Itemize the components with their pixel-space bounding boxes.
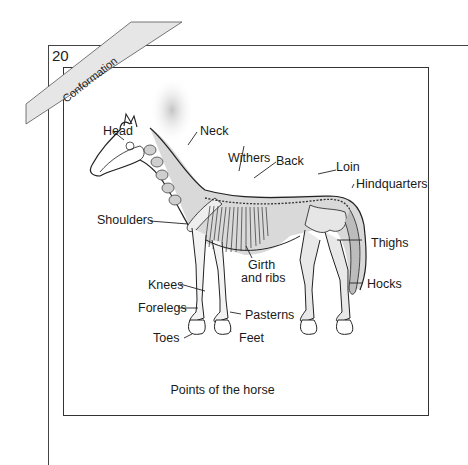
label-neck: Neck [200, 124, 228, 138]
label-girth-line2: and ribs [241, 271, 285, 285]
figure-caption: Points of the horse [170, 383, 274, 397]
label-back: Back [276, 154, 304, 168]
figure-caption-wrap: Points of the horse [0, 383, 453, 397]
label-forelegs: Forelegs [138, 301, 187, 315]
label-knees: Knees [148, 278, 183, 292]
label-thighs: Thighs [371, 236, 409, 250]
label-girth-line1: Girth [248, 258, 275, 272]
label-shoulders: Shoulders [97, 213, 153, 227]
label-hindquarters: Hindquarters [356, 177, 428, 191]
label-withers: Withers [228, 151, 270, 165]
label-hocks: Hocks [367, 277, 402, 291]
page-number: 20 [52, 47, 69, 64]
label-pasterns: Pasterns [245, 308, 294, 322]
label-head: Head [103, 124, 133, 138]
label-toes: Toes [153, 331, 179, 345]
label-feet: Feet [239, 331, 264, 345]
label-loin: Loin [336, 160, 360, 174]
